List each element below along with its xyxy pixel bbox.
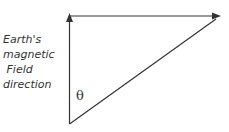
resultant-vector [70,19,217,124]
angle-theta: θ [76,88,84,103]
arrowhead-right-icon [212,13,221,20]
arrowhead-up-icon [66,13,73,22]
vector-triangle [0,0,229,132]
